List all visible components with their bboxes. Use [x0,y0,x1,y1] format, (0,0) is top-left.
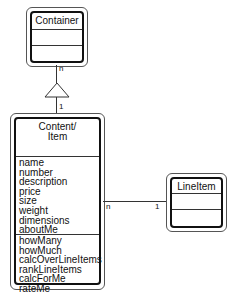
container-class[interactable]: Container [30,11,84,63]
generalization-line-upper [56,65,57,83]
generalization-line-lower [56,97,57,114]
content-item-class-name-line2: Item [16,132,99,142]
multiplicity-content-1: 1 [59,103,63,111]
container-attr-divider [32,45,82,46]
generalization-triangle-icon [44,82,70,98]
line-item-class-name: LineItem [172,182,221,192]
multiplicity-content-n: n [106,203,110,211]
operation: rateMe [19,284,102,294]
container-name-divider [32,29,82,30]
line-item-name-divider [172,193,221,194]
content-item-class[interactable]: Content/ Item name number description pr… [14,117,101,285]
multiplicity-container-n: n [59,65,63,73]
content-item-attributes: name number description price size weigh… [19,158,70,235]
container-class-name: Container [32,16,82,26]
content-item-operations: howMany howMuch calcOverLineItems rankLi… [19,236,102,294]
multiplicity-lineitem-1: 1 [155,203,159,211]
line-item-attr-divider [172,209,221,210]
line-item-class[interactable]: LineItem [170,177,223,228]
